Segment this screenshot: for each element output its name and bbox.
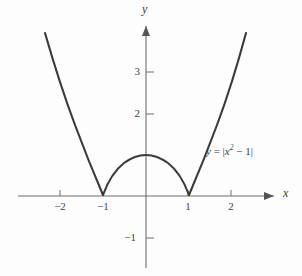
x-tick-label--2: −2 [49,200,71,212]
x-tick-label-2: 2 [220,200,242,212]
y-tick-label-2: 2 [122,107,140,119]
y-tick-label--1: −1 [118,231,136,243]
y-axis-label: y [142,2,147,17]
equation-close-bar: | [251,145,253,157]
graph-figure: y x −2 −1 1 2 3 2 −1 y = |x2 − 1| [0,0,302,276]
y-axis-arrowhead [142,26,150,36]
curve-left-branch [45,33,103,195]
curve-right-branch [189,33,246,195]
y-axis [142,26,154,268]
x-tick-label--1: −1 [92,200,114,212]
x-axis-label: x [283,186,288,201]
y-tick-label-3: 3 [122,65,140,77]
x-tick-label-1: 1 [177,200,199,212]
curve-equation-label: y = |x2 − 1| [206,143,253,157]
plot-canvas [0,0,302,276]
x-axis-arrowhead [264,192,274,200]
